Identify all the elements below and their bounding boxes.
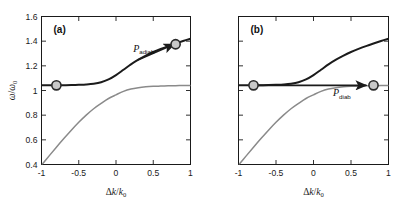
plot-frame-a	[42, 17, 191, 165]
panel-label-b: (b)	[251, 24, 264, 35]
annotation-symbol: P	[332, 87, 339, 98]
x-axis-title-a: Δk/k0	[106, 186, 127, 198]
x-tick-label: -1	[235, 168, 243, 178]
y-axis-title-group: ω/ω0	[6, 80, 18, 100]
panel-a: -1-0.500.510.40.60.811.21.41.6(a)PadiabΔ…	[26, 12, 194, 198]
annotation-symbol: P	[132, 43, 139, 54]
panel-label-a: (a)	[54, 24, 66, 35]
end-marker-a	[171, 40, 180, 49]
x-tick-label: -0.5	[269, 168, 284, 178]
y-tick-label: 1.2	[26, 61, 38, 71]
start-marker-b	[249, 81, 258, 90]
x-title-sub0: 0	[321, 191, 325, 198]
x-tick-label: 1	[386, 168, 391, 178]
y-title-sub0: 0	[11, 80, 18, 84]
curves-a	[42, 39, 191, 165]
x-axis-title-b: Δk/k0	[303, 186, 324, 198]
y-tick-label: 0.8	[26, 110, 38, 120]
x-tick-label: -0.5	[71, 168, 86, 178]
lower-branch-curve-b	[239, 86, 389, 166]
annotation-subscript: adiab	[139, 48, 155, 55]
upper-branch-curve-b	[239, 39, 389, 86]
x-tick-label: -1	[38, 168, 46, 178]
panel-b: -1-0.500.51(b)PdiabΔk/k0	[235, 17, 391, 198]
lower-branch-curve-a	[42, 86, 191, 166]
curves-b	[239, 39, 389, 165]
start-marker-a	[52, 81, 61, 90]
annotation-label-a: Padiab	[132, 43, 155, 56]
avoided-crossing-figure: -1-0.500.510.40.60.811.21.41.6(a)PadiabΔ…	[0, 0, 420, 211]
upper-branch-curve-a	[42, 39, 191, 86]
plot-frame-b	[239, 17, 389, 165]
x-tick-label: 1	[188, 168, 193, 178]
x-tick-label: 0.5	[345, 168, 357, 178]
ticks-b: -1-0.500.51	[235, 17, 391, 179]
y-tick-label: 1.6	[26, 12, 38, 22]
y-tick-label: 1.4	[26, 36, 38, 46]
x-title-sub0: 0	[123, 191, 127, 198]
y-axis-title: ω/ω0	[6, 80, 18, 100]
end-marker-b	[369, 81, 378, 90]
y-tick-label: 0.6	[26, 135, 38, 145]
annotation-subscript: diab	[339, 93, 351, 100]
y-tick-label: 0.4	[26, 160, 38, 170]
x-tick-label: 0	[114, 168, 119, 178]
annotation-label-b: Pdiab	[332, 87, 351, 100]
x-tick-label: 0.5	[147, 168, 159, 178]
y-tick-label: 1	[33, 86, 38, 96]
figure-container: -1-0.500.510.40.60.811.21.41.6(a)PadiabΔ…	[0, 0, 420, 211]
x-tick-label: 0	[311, 168, 316, 178]
